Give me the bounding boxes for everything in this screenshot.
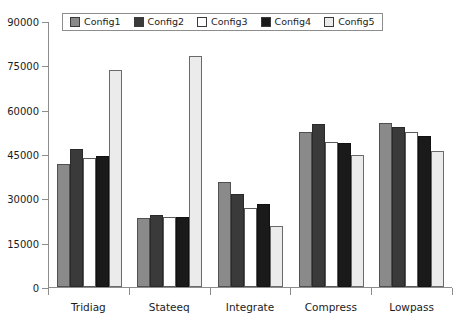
- legend-label: Config2: [148, 17, 185, 27]
- category-label-integrate: Integrate: [210, 297, 291, 317]
- bar-lowpass-config3[interactable]: [405, 132, 418, 287]
- bar-compress-config1[interactable]: [299, 132, 312, 287]
- y-axis-tick: [42, 66, 48, 67]
- bar-compress-config4[interactable]: [338, 143, 351, 287]
- bar-compress-config5[interactable]: [351, 155, 364, 287]
- bar-group: [210, 22, 291, 287]
- legend-item-config1[interactable]: Config1: [70, 17, 121, 27]
- category-label-compress: Compress: [290, 297, 371, 317]
- y-axis-tick: [42, 22, 48, 23]
- y-axis-tick-label: 90000: [7, 17, 39, 28]
- legend-label: Config5: [338, 17, 375, 27]
- bar-stateeq-config5[interactable]: [189, 56, 202, 287]
- bar-integrate-config3[interactable]: [244, 208, 257, 287]
- legend-swatch-icon: [197, 17, 207, 27]
- bar-stateeq-config1[interactable]: [137, 218, 150, 287]
- legend-swatch-icon: [261, 17, 271, 27]
- bar-integrate-config1[interactable]: [218, 182, 231, 287]
- legend-item-config2[interactable]: Config2: [134, 17, 185, 27]
- bar-tridiag-config2[interactable]: [70, 149, 83, 287]
- x-axis-tick: [371, 288, 372, 295]
- bar-tridiag-config3[interactable]: [83, 158, 96, 287]
- bar-compress-config3[interactable]: [325, 142, 338, 287]
- y-axis-tick: [42, 155, 48, 156]
- y-axis-tick-label: 0: [33, 283, 39, 294]
- chart-legend: Config1Config2Config3Config4Config5: [62, 13, 383, 31]
- y-axis-tick: [42, 244, 48, 245]
- bar-tridiag-config1[interactable]: [57, 164, 70, 287]
- bar-group: [49, 22, 130, 287]
- legend-label: Config1: [84, 17, 121, 27]
- legend-swatch-icon: [70, 17, 80, 27]
- bar-groups: [49, 22, 452, 287]
- bar-stateeq-config4[interactable]: [176, 217, 189, 287]
- bar-lowpass-config2[interactable]: [392, 127, 405, 287]
- bar-stateeq-config2[interactable]: [150, 215, 163, 287]
- y-axis-tick-label: 30000: [7, 194, 39, 205]
- legend-item-config5[interactable]: Config5: [324, 17, 375, 27]
- y-axis-tick-label: 75000: [7, 61, 39, 72]
- bar-integrate-config4[interactable]: [257, 204, 270, 287]
- bar-compress-config2[interactable]: [312, 124, 325, 287]
- x-axis-tick: [48, 288, 49, 295]
- y-axis-tick-label: 45000: [7, 150, 39, 161]
- legend-label: Config3: [211, 17, 248, 27]
- x-axis-line: [48, 287, 452, 288]
- bar-stateeq-config3[interactable]: [163, 217, 176, 287]
- legend-swatch-icon: [324, 17, 334, 27]
- x-axis-tick: [452, 288, 453, 295]
- y-axis-tick: [42, 199, 48, 200]
- y-axis-tick: [42, 111, 48, 112]
- y-axis-tick-label: 15000: [7, 238, 39, 249]
- bar-tridiag-config5[interactable]: [109, 70, 122, 287]
- category-label-stateeq: Stateeq: [129, 297, 210, 317]
- bar-integrate-config2[interactable]: [231, 194, 244, 287]
- category-label-lowpass: Lowpass: [371, 297, 452, 317]
- category-label-tridiag: Tridiag: [48, 297, 129, 317]
- bar-group: [130, 22, 211, 287]
- legend-item-config4[interactable]: Config4: [261, 17, 312, 27]
- legend-label: Config4: [275, 17, 312, 27]
- legend-item-config3[interactable]: Config3: [197, 17, 248, 27]
- plot-area: 0150003000045000600007500090000: [48, 22, 452, 288]
- bar-lowpass-config4[interactable]: [418, 136, 431, 287]
- bar-group: [371, 22, 452, 287]
- legend-swatch-icon: [134, 17, 144, 27]
- bar-tridiag-config4[interactable]: [96, 156, 109, 287]
- category-labels: TridiagStateeqIntegrateCompressLowpass: [48, 297, 452, 317]
- bar-lowpass-config5[interactable]: [431, 151, 444, 287]
- bar-integrate-config5[interactable]: [270, 226, 283, 287]
- bar-lowpass-config1[interactable]: [379, 123, 392, 287]
- x-axis-tick: [129, 288, 130, 295]
- bar-group: [291, 22, 372, 287]
- x-axis-tick: [210, 288, 211, 295]
- x-axis-tick: [290, 288, 291, 295]
- bar-chart: Config1Config2Config3Config4Config5 0150…: [0, 0, 467, 329]
- y-axis-tick-label: 60000: [7, 105, 39, 116]
